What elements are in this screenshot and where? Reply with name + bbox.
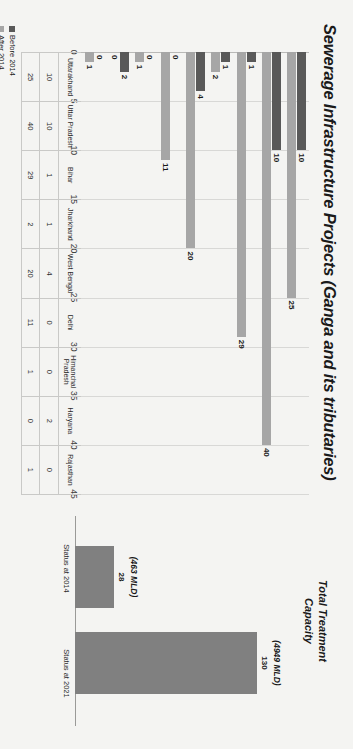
table-header: West Bengal	[58, 249, 81, 297]
bar-value-label: 10	[272, 153, 281, 162]
treatment-capacity-chart: Total Treatment Capacity 28(463 MLD)130(…	[29, 516, 329, 726]
chart-canvas: Sewerage Infrastructure Projects (Ganga …	[0, 0, 353, 749]
chart-page: Sewerage Infrastructure Projects (Ganga …	[0, 0, 353, 749]
rotated-page-wrapper: Sewerage Infrastructure Projects (Ganga …	[0, 0, 353, 749]
capacity-bar-2014	[75, 546, 114, 608]
table-column-himanchal-pradesh: Himanchal Pradesh01	[21, 348, 81, 397]
table-column-delhi: Delhi011	[21, 299, 81, 348]
projects-bar-chart: 1025104012912420011012001 05101520253035…	[21, 24, 309, 494]
bar-value-label: 4	[196, 94, 205, 98]
data-table: Uttarakhand1025Uttar Pradesh1040Bihar129…	[21, 52, 81, 495]
capacity-plot-area: 28(463 MLD)130(4949 MLD)	[75, 516, 285, 726]
chart-legend: Before 2014 After 2014	[0, 26, 17, 76]
table-column-jharkhand: Jharkhand12	[21, 200, 81, 249]
gridline-45	[81, 494, 309, 495]
bar-uttarakhand-after	[287, 52, 296, 298]
capacity-title-line2: Capacity	[302, 516, 316, 726]
bar-value-label: 1	[246, 65, 255, 69]
bar-jharkhand-after	[211, 52, 220, 72]
table-column-rajasthan: Rajasthan01	[21, 446, 81, 495]
bar-value-label: 0	[110, 55, 119, 59]
table-cell: 20	[21, 249, 40, 297]
table-column-west-bengal: West Bengal420	[21, 249, 81, 298]
table-cell: 4	[40, 249, 59, 297]
table-cell: 2	[21, 200, 40, 248]
table-header: Haryana	[58, 397, 81, 445]
bar-group-jharkhand: 12	[208, 52, 233, 494]
bar-value-label: 20	[186, 251, 195, 260]
bar-value-label: 10	[297, 153, 306, 162]
table-header: Delhi	[58, 299, 81, 347]
bar-uttarakhand-before	[297, 52, 306, 150]
capacity-axis-label-2021: Status at 2021	[62, 621, 71, 726]
bar-group-rajasthan: 01	[81, 52, 106, 494]
bar-value-label: 40	[262, 448, 271, 457]
bar-delhi-after	[161, 52, 170, 160]
table-header: Rajasthan	[58, 446, 81, 494]
table-cell: 0	[40, 446, 59, 494]
capacity-mld-label: (463 MLD)	[129, 538, 139, 616]
capacity-bar-2021	[75, 632, 257, 694]
table-cell: 0	[40, 299, 59, 347]
bar-jharkhand-before	[221, 52, 230, 62]
bar-uttar-pradesh-before	[272, 52, 281, 150]
table-cell: 0	[21, 397, 40, 445]
table-cell: 2	[40, 397, 59, 445]
bar-value-label: 29	[236, 340, 245, 349]
table-header: Himanchal Pradesh	[58, 348, 81, 396]
bar-group-west-bengal: 420	[182, 52, 207, 494]
bar-rows: 1025104012912420011012001	[81, 52, 309, 494]
table-header: Uttar Pradesh	[58, 102, 81, 150]
capacity-title: Total Treatment Capacity	[302, 516, 330, 726]
bar-value-label: 0	[170, 55, 179, 59]
bar-value-label: 1	[135, 65, 144, 69]
bar-value-label: 25	[287, 301, 296, 310]
bar-value-label: 2	[120, 75, 129, 79]
bar-value-label: 1	[221, 65, 230, 69]
table-cell: 0	[40, 348, 59, 396]
table-column-bihar: Bihar129	[21, 151, 81, 200]
capacity-value-label: 130	[260, 632, 269, 694]
legend-swatch-after	[0, 26, 4, 32]
table-column-uttarakhand: Uttarakhand1025	[21, 53, 81, 102]
table-cell: 11	[21, 299, 40, 347]
bar-rajasthan-after	[85, 52, 94, 62]
table-header: Jharkhand	[58, 200, 81, 248]
table-column-haryana: Haryana20	[21, 397, 81, 446]
bar-west-bengal-before	[196, 52, 205, 91]
bar-group-haryana: 20	[106, 52, 131, 494]
table-cell: 1	[40, 151, 59, 199]
table-cell: 25	[21, 53, 40, 101]
capacity-axis-label-2014: Status at 2014	[62, 516, 71, 621]
table-cell: 29	[21, 151, 40, 199]
bar-himanchal-pradesh-after	[135, 52, 144, 62]
bar-value-label: 0	[145, 55, 154, 59]
bar-bihar-before	[247, 52, 256, 62]
table-header: Uttarakhand	[58, 53, 81, 101]
bar-value-label: 0	[94, 55, 103, 59]
bar-bihar-after	[237, 52, 246, 337]
legend-label-before: Before 2014	[6, 35, 17, 76]
bar-uttar-pradesh-after	[262, 52, 271, 445]
table-cell: 40	[21, 102, 40, 150]
table-cell: 10	[40, 53, 59, 101]
legend-swatch-before	[9, 26, 15, 32]
capacity-title-line1: Total Treatment	[315, 516, 329, 726]
legend-item-before: Before 2014	[6, 26, 17, 76]
table-cell: 1	[40, 200, 59, 248]
bar-value-label: 1	[84, 65, 93, 69]
bar-group-himanchal-pradesh: 01	[132, 52, 157, 494]
capacity-mld-label: (4949 MLD)	[272, 624, 282, 702]
bar-group-uttar-pradesh: 1040	[258, 52, 283, 494]
table-cell: 1	[21, 348, 40, 396]
bar-value-label: 11	[160, 163, 169, 171]
bar-group-bihar: 129	[233, 52, 258, 494]
bar-group-uttarakhand: 1025	[284, 52, 309, 494]
bar-group-delhi: 011	[157, 52, 182, 494]
bar-west-bengal-after	[186, 52, 195, 248]
table-cell: 1	[21, 446, 40, 494]
table-column-uttar-pradesh: Uttar Pradesh1040	[21, 102, 81, 151]
bar-haryana-before	[120, 52, 129, 72]
legend-item-after: After 2014	[0, 26, 6, 76]
capacity-axis-labels: Status at 2014Status at 2021	[62, 516, 71, 726]
